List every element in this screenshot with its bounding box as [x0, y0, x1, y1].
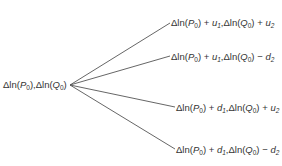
edge-2 — [70, 56, 170, 85]
branch-node-3: Δln(P0) + d1,Δln(Q0) + u2 — [176, 102, 279, 117]
root-node: Δln(P0),Δln(Q0) — [3, 79, 67, 94]
edge-4 — [70, 85, 175, 149]
branch-node-4: Δln(P0) + d1,Δln(Q0) − d2 — [176, 144, 279, 159]
branch-node-2: Δln(P0) + u1,Δln(Q0) − d2 — [171, 51, 274, 66]
branch-node-1: Δln(P0) + u1,Δln(Q0) + u2 — [171, 17, 274, 32]
edge-1 — [70, 23, 170, 85]
edge-3 — [70, 85, 175, 107]
